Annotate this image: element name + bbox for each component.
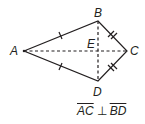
- label-a: A: [10, 45, 18, 57]
- segment-bd: BD: [110, 104, 127, 118]
- label-c: C: [130, 45, 139, 57]
- label-d: D: [93, 86, 102, 98]
- perpendicular-caption: AC⊥BD: [77, 104, 126, 118]
- segment-ac: AC: [77, 104, 94, 118]
- point-a-dot: [23, 50, 25, 52]
- label-b: B: [94, 7, 102, 19]
- perpendicular-symbol: ⊥: [97, 104, 107, 118]
- label-e: E: [87, 38, 95, 50]
